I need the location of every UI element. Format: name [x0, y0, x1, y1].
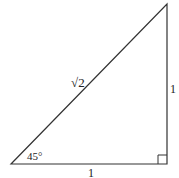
right-triangle — [11, 4, 167, 164]
triangle-diagram: √2 1 1 45° — [0, 0, 179, 178]
angle-label: 45° — [27, 150, 42, 162]
horizontal-side-label: 1 — [88, 166, 94, 178]
right-angle-marker — [158, 155, 167, 164]
hypotenuse-label: √2 — [71, 75, 85, 90]
vertical-side-label: 1 — [170, 82, 176, 96]
